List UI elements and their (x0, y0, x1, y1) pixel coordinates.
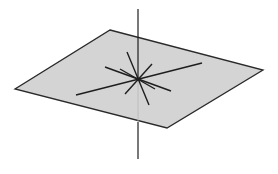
diagram-canvas (0, 0, 278, 174)
perpendicular-line-plane-figure (0, 0, 278, 174)
foot-point (136, 77, 139, 80)
